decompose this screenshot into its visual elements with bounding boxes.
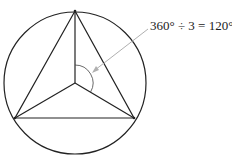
annotation-arrow-line [95,29,148,70]
vertex-top [74,10,77,13]
vertex-bottom-right [133,117,136,120]
radius-to-bottom-right [75,83,134,118]
radius-to-bottom-left [15,83,75,118]
vertex-bottom-left [14,117,17,120]
annotation-arrow-head [92,66,99,73]
central-angle-formula: 360° ÷ 3 = 120° [150,18,232,34]
